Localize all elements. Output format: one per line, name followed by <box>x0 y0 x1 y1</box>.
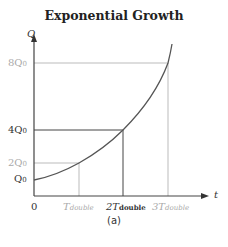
x-axis-arrow-icon <box>201 193 209 199</box>
y-axis-label: Q <box>27 28 35 39</box>
tick-2t-double: 2Tdouble <box>106 201 146 212</box>
tick-8q0: 8Q0 <box>8 57 27 68</box>
tick-0: 0 <box>31 201 37 212</box>
tick-4q0: 4Q0 <box>8 124 27 135</box>
exponential-curve <box>34 44 172 180</box>
x-axis-label: t <box>214 189 218 200</box>
tick-2q0: 2Q0 <box>8 157 27 168</box>
tick-q0: Q0 <box>14 173 27 184</box>
figure-caption: (a) <box>0 215 228 226</box>
tick-t-double: Tdouble <box>63 201 94 212</box>
tick-3t-double: 3Tdouble <box>152 201 189 212</box>
